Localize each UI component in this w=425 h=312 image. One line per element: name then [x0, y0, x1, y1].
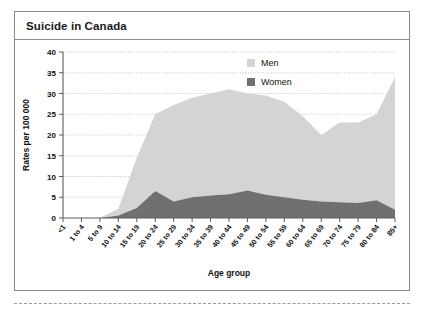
y-tick-label: 10 — [47, 173, 56, 182]
y-tick-label: 20 — [47, 131, 56, 140]
x-axis-title: Age group — [208, 268, 251, 278]
y-tick-label: 35 — [47, 69, 56, 78]
y-tick-label: 0 — [52, 214, 57, 223]
bottom-divider — [14, 303, 410, 304]
y-tick-label: 5 — [52, 193, 57, 202]
legend-label: Men — [261, 58, 279, 68]
y-tick-label: 25 — [47, 110, 56, 119]
chart-plot-area: 0510152025303540<11 to 45 to 910 to 1415… — [15, 40, 409, 290]
legend-swatch — [247, 78, 255, 86]
x-tick-label: 1 to 4 — [67, 223, 86, 243]
figure-title: Suicide in Canada — [26, 20, 127, 32]
figure-title-bar: Suicide in Canada — [15, 12, 409, 40]
legend-swatch — [247, 59, 255, 67]
x-tick-label: 80 to 84 — [358, 223, 382, 250]
x-tick-label: 85+ — [385, 223, 400, 238]
legend-label: Women — [261, 77, 292, 87]
y-tick-label: 15 — [47, 152, 56, 161]
x-tick-label: <1 — [55, 223, 67, 235]
figure-panel: Suicide in Canada 0510152025303540<11 to… — [14, 11, 410, 291]
y-tick-label: 30 — [47, 90, 56, 99]
y-axis-title: Rates per 100 000 — [21, 99, 31, 171]
area-chart: 0510152025303540<11 to 45 to 910 to 1415… — [15, 40, 409, 290]
y-tick-label: 40 — [47, 48, 56, 57]
